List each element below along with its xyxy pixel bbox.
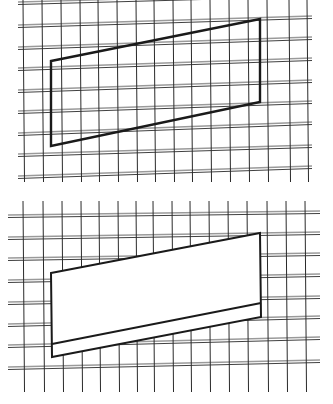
diagram-canvas <box>0 0 333 404</box>
grid-line-horizontal <box>18 40 312 50</box>
grid-line-vertical <box>229 0 231 182</box>
grid-line-vertical <box>154 0 156 182</box>
grid-line-vertical <box>210 0 212 182</box>
grid-line-horizontal <box>18 16 312 25</box>
grid-line-vertical <box>289 0 291 182</box>
bottom-grid-figure <box>8 201 320 392</box>
grid-paper-diagram <box>0 0 333 404</box>
grid-line-vertical <box>191 0 193 182</box>
grid-line-vertical <box>267 0 269 182</box>
grid-line-vertical <box>307 0 309 182</box>
grid-line-horizontal <box>8 235 320 240</box>
grid-line-vertical <box>42 0 44 182</box>
grid-line-vertical <box>43 201 45 392</box>
grid <box>18 0 312 182</box>
grid-line-vertical <box>136 0 138 182</box>
grid-line-vertical <box>23 201 25 392</box>
top-grid-figure <box>18 0 312 182</box>
grid-line-horizontal <box>8 232 320 237</box>
grid-line-vertical <box>173 0 175 182</box>
grid-line-vertical <box>248 0 250 182</box>
grid-line-vertical <box>117 0 119 182</box>
grid-line-vertical <box>98 0 100 182</box>
